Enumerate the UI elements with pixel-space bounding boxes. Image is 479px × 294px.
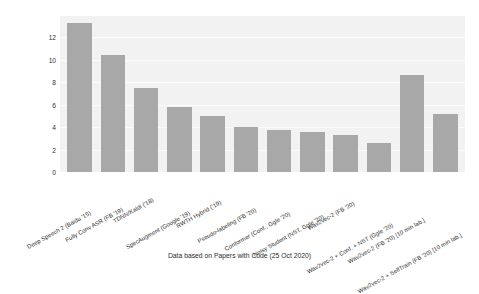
bar xyxy=(101,55,126,172)
bar-slot xyxy=(63,16,96,172)
bar-slot xyxy=(263,16,296,172)
y-tick-6: 6 xyxy=(40,101,56,108)
bar xyxy=(234,127,259,172)
x-tick-label: SpecAugment (Google '19) xyxy=(188,175,254,215)
bar-slot xyxy=(362,16,395,172)
bar-series xyxy=(60,16,465,172)
bar xyxy=(300,132,325,172)
bar-slot xyxy=(130,16,163,172)
plot-area xyxy=(60,16,465,172)
bar xyxy=(400,75,425,172)
bar xyxy=(333,135,358,172)
y-axis-tick-labels: 024681012 xyxy=(40,20,56,176)
bar xyxy=(267,130,292,172)
bar xyxy=(367,143,392,172)
x-tick-label: Wav2vec-2 (FB '20) xyxy=(352,175,401,206)
bar-slot xyxy=(229,16,262,172)
y-tick-10: 10 xyxy=(40,56,56,63)
y-tick-12: 12 xyxy=(40,34,56,41)
x-tick-label: Wav2vec-2 + Conf. + NST (Ggle '20) xyxy=(391,175,479,227)
bar-slot xyxy=(96,16,129,172)
bar-slot xyxy=(296,16,329,172)
bar xyxy=(200,116,225,172)
chart-caption: Data based on Papers with Code (25 Oct 2… xyxy=(0,252,479,259)
bar-slot xyxy=(429,16,462,172)
bar-slot xyxy=(163,16,196,172)
bar xyxy=(67,23,92,172)
x-axis-tick-labels: Deep Speech 2 (Baidu '15)Fully Conv ASR … xyxy=(60,172,465,250)
y-tick-2: 2 xyxy=(40,146,56,153)
y-tick-4: 4 xyxy=(40,124,56,131)
y-tick-0: 0 xyxy=(40,169,56,176)
bar-slot xyxy=(396,16,429,172)
bar-slot xyxy=(329,16,362,172)
y-tick-8: 8 xyxy=(40,79,56,86)
bar xyxy=(134,88,159,172)
bar xyxy=(433,114,458,172)
bar xyxy=(167,107,192,172)
bar-slot xyxy=(196,16,229,172)
